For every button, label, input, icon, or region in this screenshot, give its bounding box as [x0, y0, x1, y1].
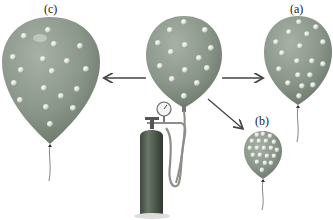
gas-tank	[140, 130, 163, 215]
balloon-center	[146, 16, 222, 108]
diagram-canvas	[0, 0, 333, 220]
balloon-b	[244, 131, 282, 210]
gas-tank-assembly	[134, 102, 186, 219]
label-b: (b)	[255, 114, 269, 129]
label-c: (c)	[44, 2, 57, 17]
balloon-a	[264, 16, 332, 142]
label-a: (a)	[290, 2, 303, 17]
balloon-c	[2, 17, 100, 181]
arrow-to-b	[208, 99, 242, 128]
